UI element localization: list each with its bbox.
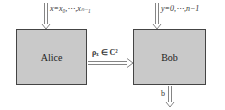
channel-label: ρₓ ∈ C² [92, 48, 118, 57]
output-label: b [161, 89, 165, 98]
bob-label: Bob [161, 52, 178, 63]
alice-label: Alice [41, 52, 63, 63]
bob-input-arrow [153, 3, 161, 29]
alice-to-bob-arrow [88, 59, 133, 68]
alice-input-label: x=x₀,⋯,xₙ₋₁ [50, 4, 91, 13]
bob-node: Bob [133, 29, 206, 85]
alice-node: Alice [16, 29, 87, 85]
alice-input-arrow [42, 3, 50, 29]
bob-output-arrow [166, 86, 174, 107]
bob-input-label: y=0,⋯,n−1 [161, 4, 199, 13]
